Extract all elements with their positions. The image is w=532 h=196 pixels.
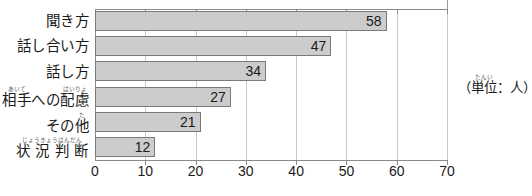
axis-bottom-line [95, 160, 448, 161]
category-label: 状 況 判 断じょうきょうはんだん [0, 135, 89, 160]
x-tick-label: 20 [188, 164, 204, 178]
bar-value-label: 27 [210, 90, 230, 104]
bar: 47 [95, 36, 331, 56]
category-label: 相手あいてへの配慮はいりょ [0, 85, 89, 110]
x-tick-label: 0 [91, 164, 99, 178]
x-tick-label: 50 [339, 164, 355, 178]
category-label: その他た [0, 110, 89, 135]
category-label-text: 話し方 [46, 65, 90, 80]
bar: 27 [95, 87, 231, 107]
category-label-text: その他た [46, 112, 90, 134]
bar-value-label: 47 [311, 39, 331, 53]
category-label-text: 聞き方 [46, 14, 90, 29]
x-tick-label: 30 [238, 164, 254, 178]
category-label-text: 状 況 判 断じょうきょうはんだん [16, 137, 89, 159]
bar-value-label: 21 [180, 115, 200, 129]
plot-area: 584734272112 [95, 9, 448, 161]
x-tick-label: 70 [439, 164, 455, 178]
x-tick-label: 10 [137, 164, 153, 178]
category-label: 聞き方 [0, 9, 89, 34]
bar: 12 [95, 137, 155, 157]
bar-row: 12 [95, 135, 448, 160]
bar-value-label: 12 [135, 140, 155, 154]
bar-row: 58 [95, 9, 448, 34]
category-label-text: 話し合い方 [17, 39, 90, 54]
x-tick-label: 60 [389, 164, 405, 178]
bar: 58 [95, 11, 387, 31]
unit-note: （単位たんい：人） [458, 74, 532, 96]
bar-row: 34 [95, 59, 448, 84]
bar-row: 27 [95, 85, 448, 110]
category-label: 話し合い方 [0, 34, 89, 59]
bar-value-label: 58 [366, 14, 386, 28]
bar-value-label: 34 [245, 64, 265, 78]
category-label-text: 相手あいてへの配慮はいりょ [2, 86, 89, 108]
bar-row: 47 [95, 34, 448, 59]
x-axis-tick-labels: 010203040506070 [95, 164, 495, 184]
bar: 34 [95, 61, 266, 81]
bar: 21 [95, 112, 201, 132]
bar-row: 21 [95, 110, 448, 135]
x-tick-label: 40 [288, 164, 304, 178]
category-label: 話し方 [0, 59, 89, 84]
category-axis-labels: 聞き方話し合い方話し方相手あいてへの配慮はいりょその他た状 況 判 断じょうきょ… [0, 0, 92, 170]
